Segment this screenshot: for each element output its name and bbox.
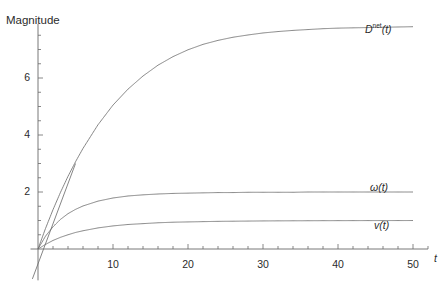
x-tick-label: 30 — [255, 258, 271, 270]
initial-slope-line — [32, 164, 75, 279]
curve-label-v: v(t) — [374, 219, 389, 231]
x-tick-label: 50 — [405, 258, 421, 270]
x-tick-label: 10 — [105, 258, 121, 270]
data-curves — [32, 27, 413, 279]
chart-canvas: Magnitude t 1020304050246 Dnet(t) ω(t) v… — [0, 0, 447, 287]
curve-label-dnet-base: D — [365, 23, 373, 35]
curve-label-dnet-sup: net — [373, 22, 382, 29]
y-tick-label: 4 — [16, 128, 30, 140]
axes — [31, 24, 429, 281]
x-tick-label: 40 — [330, 258, 346, 270]
curve-v — [38, 221, 413, 249]
curve-dnet — [38, 27, 413, 249]
y-tick-label: 6 — [16, 71, 30, 83]
axis-ticks — [38, 35, 428, 249]
x-axis-title: t — [434, 252, 437, 264]
x-tick-label: 20 — [180, 258, 196, 270]
line-chart-plot — [0, 0, 447, 287]
curve-label-dnet-suffix: (t) — [382, 23, 392, 35]
y-tick-label: 2 — [16, 185, 30, 197]
curve-label-dnet: Dnet(t) — [365, 22, 392, 35]
curve-label-omega: ω(t) — [370, 181, 388, 193]
y-axis-title: Magnitude — [6, 14, 60, 26]
